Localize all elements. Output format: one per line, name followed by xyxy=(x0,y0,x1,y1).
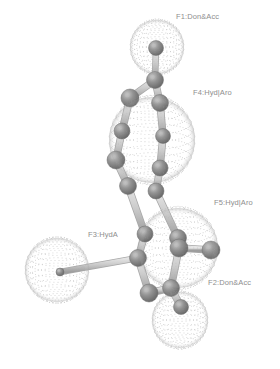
atom-highlight xyxy=(151,186,155,190)
feature-label-f2: F2:Don&Acc xyxy=(208,279,251,287)
feature-label-f4: F4:Hyd|Aro xyxy=(193,89,232,97)
feature-sphere-f1 xyxy=(130,18,185,75)
feature-sphere-f5 xyxy=(138,206,219,290)
feature-label-f1: F1:Don&Acc xyxy=(176,13,219,21)
feature-label-f3: F3:HydA xyxy=(88,231,118,239)
atom xyxy=(148,183,164,199)
atom-highlight xyxy=(125,93,130,98)
atom-highlight xyxy=(123,181,128,186)
molecule-viewer[interactable]: F1:Don&Acc F4:Hyd|Aro F5:Hyd|Aro F3:HydA… xyxy=(0,0,280,369)
atom xyxy=(120,178,137,195)
atom-highlight xyxy=(150,75,155,80)
feature-sphere-f2 xyxy=(152,290,209,349)
feature-label-f5: F5:Hyd|Aro xyxy=(214,199,253,207)
pharmacophore-3d-scene[interactable] xyxy=(0,0,280,369)
feature-sphere-f3 xyxy=(25,236,90,304)
atom xyxy=(140,284,158,302)
atom-highlight xyxy=(144,288,149,293)
atom-highlight xyxy=(133,253,138,258)
